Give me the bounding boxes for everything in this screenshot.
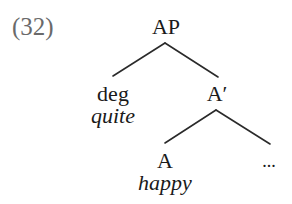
edge-Abar-ellipsis — [216, 110, 270, 144]
edge-AP-deg — [113, 43, 165, 76]
word-quite: quite — [91, 105, 135, 127]
edge-AP-Abar — [165, 43, 218, 77]
node-ellipsis: ... — [262, 152, 276, 170]
edge-Abar-A — [165, 110, 216, 143]
node-AP: AP — [152, 16, 180, 38]
node-deg: deg — [97, 83, 129, 105]
syntax-tree-figure: (32) AP deg quite A′ A happy ... — [0, 0, 292, 204]
node-A: A — [157, 150, 173, 172]
node-A-bar: A′ — [207, 83, 228, 105]
word-happy: happy — [138, 172, 192, 194]
